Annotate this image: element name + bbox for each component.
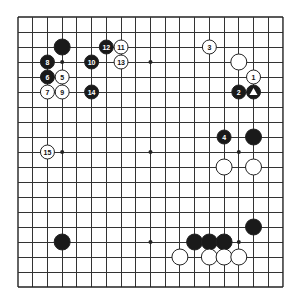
black-stone[interactable] [246,129,262,145]
move-number: 2 [237,89,241,96]
white-stone[interactable]: 3 [202,40,216,54]
white-stone-disc [246,159,262,175]
star-point [148,240,152,244]
white-stone[interactable] [172,249,188,265]
move-number: 4 [222,134,226,141]
white-stone[interactable]: 9 [55,85,69,99]
move-number: 9 [60,89,64,96]
black-stone-disc [246,129,262,145]
white-stone[interactable]: 1 [247,70,261,84]
move-number: 11 [117,44,125,51]
black-stone[interactable]: 6 [40,70,54,84]
white-stone-disc [201,249,217,265]
black-stone[interactable]: 2 [232,85,246,99]
black-stone[interactable] [216,234,232,250]
star-point [237,150,241,154]
go-board[interactable]: 810121113657914312415 [0,0,300,303]
black-stone[interactable] [201,234,217,250]
black-stone[interactable]: 10 [85,55,99,69]
black-stone-disc [54,234,70,250]
white-stone[interactable] [246,159,262,175]
white-stone-disc [172,249,188,265]
move-number: 8 [45,59,49,66]
move-number: 15 [44,149,52,156]
black-stone[interactable] [247,85,261,99]
star-point [148,150,152,154]
black-stone[interactable] [246,219,262,235]
star-point [237,240,241,244]
star-point [148,60,152,64]
move-number: 10 [88,59,96,66]
black-stone[interactable] [187,234,203,250]
move-number: 12 [102,44,110,51]
black-stone[interactable] [54,39,70,55]
white-stone[interactable]: 7 [40,85,54,99]
white-stone[interactable]: 5 [55,70,69,84]
white-stone-disc [231,54,247,70]
move-number: 7 [45,89,49,96]
white-stone[interactable] [201,249,217,265]
move-number: 5 [60,74,64,81]
black-stone[interactable]: 8 [40,55,54,69]
black-stone-disc [201,234,217,250]
move-number: 13 [117,59,125,66]
star-point [60,150,64,154]
move-number: 3 [207,44,211,51]
black-stone[interactable]: 4 [217,130,231,144]
white-stone[interactable]: 15 [40,145,54,159]
white-stone[interactable]: 11 [114,40,128,54]
black-stone-disc [246,219,262,235]
move-number: 1 [252,74,256,81]
white-stone-disc [231,249,247,265]
white-stone-disc [216,159,232,175]
move-number: 14 [88,89,96,96]
black-stone[interactable]: 14 [85,85,99,99]
black-stone[interactable] [54,234,70,250]
white-stone[interactable] [216,159,232,175]
black-stone-disc [216,234,232,250]
move-number: 6 [45,74,49,81]
black-stone-disc [54,39,70,55]
star-point [60,60,64,64]
white-stone[interactable] [231,54,247,70]
white-stone[interactable] [231,249,247,265]
black-stone[interactable]: 12 [99,40,113,54]
black-stone-disc [187,234,203,250]
white-stone-disc [216,249,232,265]
white-stone[interactable] [216,249,232,265]
white-stone[interactable]: 13 [114,55,128,69]
